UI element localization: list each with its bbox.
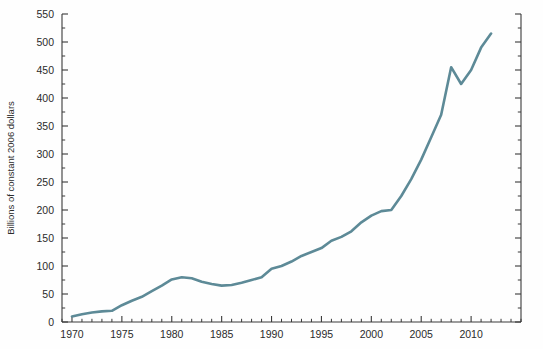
y-tick-label: 0 bbox=[48, 316, 54, 328]
y-tick-label: 100 bbox=[36, 260, 54, 272]
y-tick-label: 300 bbox=[36, 148, 54, 160]
x-tick-label: 2000 bbox=[360, 328, 384, 340]
y-tick-label: 250 bbox=[36, 176, 54, 188]
x-tick-label: 1995 bbox=[310, 328, 334, 340]
y-tick-label: 150 bbox=[36, 232, 54, 244]
x-tick-label: 1980 bbox=[160, 328, 184, 340]
x-tick-label: 1985 bbox=[210, 328, 234, 340]
x-tick-label: 1970 bbox=[60, 328, 84, 340]
data-line-spending bbox=[72, 34, 491, 317]
y-tick-label: 200 bbox=[36, 204, 54, 216]
line-chart: 0501001502002503003504004505005501970197… bbox=[0, 0, 543, 349]
y-tick-label: 550 bbox=[36, 8, 54, 20]
y-tick-label: 450 bbox=[36, 64, 54, 76]
x-tick-label: 2005 bbox=[410, 328, 434, 340]
y-tick-label: 350 bbox=[36, 120, 54, 132]
y-axis-title: Billions of constant 2006 dollars bbox=[5, 101, 16, 235]
chart-container: 0501001502002503003504004505005501970197… bbox=[0, 0, 543, 349]
x-tick-label: 1990 bbox=[260, 328, 284, 340]
x-tick-label: 1975 bbox=[110, 328, 134, 340]
x-tick-label: 2010 bbox=[459, 328, 483, 340]
y-tick-label: 400 bbox=[36, 92, 54, 104]
y-tick-label: 500 bbox=[36, 36, 54, 48]
y-tick-label: 50 bbox=[42, 288, 54, 300]
